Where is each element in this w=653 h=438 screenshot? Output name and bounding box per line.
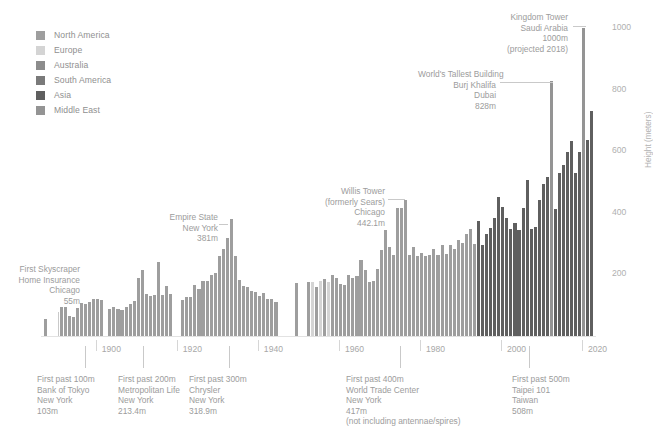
x-axis-tick-label: 1940 xyxy=(264,344,283,354)
bar xyxy=(133,301,136,336)
annotation-line: Bank of Tokyo xyxy=(37,385,117,396)
bar xyxy=(501,207,504,336)
annotation-first-skyscraper: First SkyscraperHome InsuranceChicago55m xyxy=(8,264,80,306)
bar xyxy=(226,238,229,336)
annotation-leader-line xyxy=(143,346,144,368)
legend-item-middle-east[interactable]: Middle East xyxy=(36,103,111,117)
annotation-line: First past 300m xyxy=(189,374,269,385)
bar xyxy=(169,294,172,337)
bar xyxy=(92,299,95,336)
x-axis-tick-label: 2020 xyxy=(588,344,607,354)
bar xyxy=(331,275,334,336)
bar xyxy=(517,230,520,336)
legend-item-asia[interactable]: Asia xyxy=(36,88,111,102)
bar xyxy=(392,255,395,336)
bar xyxy=(84,304,87,336)
annotation-line: First Skyscraper xyxy=(8,264,80,275)
annotation-line: Dubai xyxy=(418,90,496,101)
bar xyxy=(522,208,525,336)
annotation-line: Willis Tower xyxy=(313,186,385,197)
bar xyxy=(359,260,362,336)
annotation-line: First past 400m xyxy=(346,374,466,385)
annotation-line: 318.9m xyxy=(189,406,269,417)
bar xyxy=(347,275,350,336)
bar xyxy=(400,208,403,336)
x-axis-tick-label: 1920 xyxy=(183,344,202,354)
annotation-line: First past 100m xyxy=(37,374,117,385)
bar xyxy=(246,287,249,336)
bar xyxy=(586,140,589,336)
annotation-line: New York xyxy=(189,395,269,406)
bar xyxy=(193,285,196,336)
bar xyxy=(477,221,480,336)
bar xyxy=(295,283,298,336)
bar xyxy=(262,293,265,336)
bar xyxy=(509,229,512,336)
y-axis-tick-label: 400 xyxy=(612,207,626,217)
bar xyxy=(372,281,375,336)
bar xyxy=(416,256,419,336)
annotation-kingdom-tower: Kingdom TowerSaudi Arabia1000m(projected… xyxy=(496,12,568,54)
bar xyxy=(384,230,387,336)
annotation-line: 381m xyxy=(158,233,218,244)
legend-swatch-icon xyxy=(36,76,45,85)
bar xyxy=(497,197,500,336)
bar xyxy=(230,219,233,336)
bar xyxy=(351,278,354,336)
bar xyxy=(505,218,508,336)
bar xyxy=(80,303,83,336)
y-axis-tick-label: 200 xyxy=(612,268,626,278)
bar xyxy=(343,285,346,336)
bar xyxy=(368,282,371,336)
annotation-leader-line xyxy=(388,199,405,200)
bar xyxy=(137,278,140,336)
annotation-leader-line xyxy=(219,224,228,225)
bar xyxy=(112,307,115,336)
bar xyxy=(513,223,516,336)
annotation-line: First past 500m xyxy=(512,374,592,385)
bar xyxy=(441,245,444,336)
bar xyxy=(582,28,585,336)
bar xyxy=(420,253,423,336)
bar xyxy=(538,200,541,336)
bar xyxy=(116,309,119,336)
legend-item-south-america[interactable]: South America xyxy=(36,73,111,87)
bar xyxy=(574,173,577,336)
bar xyxy=(436,255,439,336)
legend-item-australia[interactable]: Australia xyxy=(36,58,111,72)
bar xyxy=(424,256,427,336)
legend-item-label: Asia xyxy=(54,91,71,100)
bar xyxy=(327,282,330,336)
bar xyxy=(149,296,152,336)
legend-item-europe[interactable]: Europe xyxy=(36,43,111,57)
annotation-line: New York xyxy=(346,395,466,406)
bar xyxy=(461,243,464,336)
y-axis-tick-label: 1000 xyxy=(612,22,631,32)
annotation-line: Burj Khalifa xyxy=(418,80,496,91)
annotation-leader-line xyxy=(400,346,401,368)
bar xyxy=(242,286,245,336)
annotation-leader-line xyxy=(500,82,553,83)
bar xyxy=(201,281,204,336)
annotation-line: Home Insurance xyxy=(8,275,80,286)
bar xyxy=(489,228,492,336)
bar xyxy=(254,292,257,336)
bar xyxy=(339,284,342,336)
bar xyxy=(210,275,213,336)
annotation-line: Taiwan xyxy=(512,395,592,406)
bar xyxy=(530,229,533,336)
bar xyxy=(218,256,221,336)
annotation-line: 828m xyxy=(418,101,496,112)
annotation-leader-line xyxy=(529,346,530,368)
bar xyxy=(323,279,326,336)
x-axis-tick-mark xyxy=(177,340,178,351)
legend-item-north-america[interactable]: North America xyxy=(36,28,111,42)
annotation-leader-line xyxy=(85,346,86,368)
annotation-burj-khalifa: World's Tallest BuildingBurj KhalifaDuba… xyxy=(418,69,496,111)
bar xyxy=(469,229,472,336)
annotation-line: Kingdom Tower xyxy=(496,12,568,23)
bar xyxy=(590,111,593,336)
annotation-line: First past 200m xyxy=(118,374,200,385)
y-axis-title: Height (meters) xyxy=(644,112,653,168)
bar xyxy=(258,296,261,336)
